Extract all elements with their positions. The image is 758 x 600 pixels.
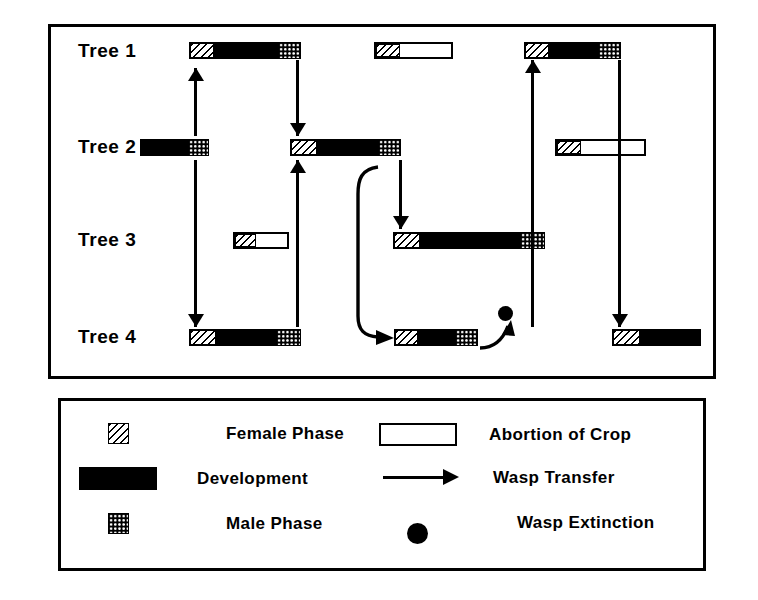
legend-development: Development	[79, 467, 308, 490]
transfer-tree1-to-tree4-shaft	[618, 60, 621, 327]
legend-male-phase-swatch-slot	[79, 513, 226, 534]
tree3-crop-2	[393, 232, 545, 249]
tree1-crop-3	[524, 42, 621, 59]
row-label-tree3: Tree 3	[78, 229, 137, 251]
legend-panel: Female PhaseDevelopmentMale Phase Aborti…	[58, 398, 706, 571]
arrow-shaft	[383, 476, 445, 479]
tree2-crop-2-black-segment	[317, 140, 378, 155]
tree1-crop-3-male-segment	[598, 43, 620, 58]
legend-female-phase-swatch-slot	[79, 423, 226, 444]
tree4-crop-1-female-segment	[190, 330, 216, 345]
tree3-crop-1	[233, 232, 289, 249]
tree2-crop-1	[140, 139, 209, 156]
tree2-crop-3-female-segment	[557, 141, 581, 154]
transfer-tree4-to-extinction-arrowhead	[502, 320, 515, 336]
transfer-tree4-to-tree2-arrowhead	[290, 160, 306, 173]
tree3-crop-1-female-segment	[235, 234, 256, 247]
transfer-tree2-curve-to-tree4	[356, 164, 396, 349]
row-label-tree2: Tree 2	[78, 136, 137, 158]
transfer-tree4-to-extinction	[480, 322, 520, 362]
diagram-panel: Tree 1Tree 2Tree 3Tree 4	[48, 24, 716, 379]
arrow-head	[443, 469, 459, 485]
tree4-crop-2-female-segment	[395, 330, 418, 345]
legend-wasp-transfer-label: Wasp Transfer	[493, 468, 615, 488]
tree1-crop-1-black-segment	[214, 43, 278, 58]
legend-development-dev-icon	[79, 467, 157, 490]
transfer-tree2-to-tree4-arrowhead	[188, 314, 204, 327]
tree4-crop-2	[394, 329, 478, 346]
legend-wasp-extinction-label: Wasp Extinction	[517, 513, 655, 533]
tree4-crop-3-female-segment	[613, 330, 640, 345]
tree2-crop-3-white-segment	[581, 141, 644, 154]
tree1-crop-2	[374, 42, 453, 59]
figure-canvas: Tree 1Tree 2Tree 3Tree 4 Female PhaseDev…	[0, 0, 758, 600]
legend-male-phase-male-icon	[108, 513, 129, 534]
legend-female-phase-label: Female Phase	[226, 424, 344, 444]
transfer-tree4-to-tree2-shaft	[296, 160, 299, 327]
tree1-crop-3-black-segment	[549, 43, 598, 58]
tree3-crop-1-white-segment	[256, 234, 287, 247]
tree4-crop-1-black-segment	[216, 330, 276, 345]
transfer-tree2-to-tree1-arrowhead	[188, 68, 204, 81]
legend-wasp-extinction: Wasp Extinction	[379, 513, 655, 533]
tree3-crop-2-black-segment	[420, 233, 520, 248]
legend-female-phase-female-icon	[108, 423, 129, 444]
legend-male-phase: Male Phase	[79, 513, 323, 534]
legend-wasp-extinction-dot-icon	[407, 523, 428, 544]
row-label-tree4: Tree 4	[78, 326, 137, 348]
tree4-crop-2-male-segment	[455, 330, 477, 345]
tree1-crop-2-white-segment	[400, 44, 451, 57]
tree2-crop-2-male-segment	[378, 140, 400, 155]
row-label-tree1: Tree 1	[78, 40, 137, 62]
legend-development-swatch-slot	[79, 467, 197, 490]
tree4-crop-2-black-segment	[418, 330, 455, 345]
transfer-tree2-curve-to-tree4-arrowhead	[376, 330, 394, 345]
tree2-crop-1-male-segment	[188, 140, 208, 155]
tree2-crop-1-black-segment	[141, 140, 188, 155]
tree3-crop-2-female-segment	[394, 233, 420, 248]
tree4-crop-1	[189, 329, 301, 346]
tree2-crop-2	[290, 139, 401, 156]
transfer-tree1-to-tree4-arrowhead	[612, 314, 628, 327]
tree2-crop-3	[555, 139, 646, 156]
tree1-crop-1	[189, 42, 301, 59]
transfer-tree4-to-tree1-shaft	[531, 60, 534, 327]
tree1-crop-1-female-segment	[190, 43, 214, 58]
legend-development-label: Development	[197, 469, 308, 489]
tree4-crop-3-black-segment	[640, 330, 700, 345]
legend-abortion-of-crop-label: Abortion of Crop	[489, 425, 631, 445]
tree2-crop-2-female-segment	[291, 140, 317, 155]
legend-wasp-transfer: Wasp Transfer	[379, 467, 615, 488]
legend-wasp-transfer-swatch-slot	[379, 467, 493, 488]
tree4-crop-1-male-segment	[276, 330, 300, 345]
legend-female-phase: Female Phase	[79, 423, 344, 444]
transfer-tree2-to-tree4-shaft	[194, 160, 197, 327]
transfer-tree4-to-tree1-arrowhead	[525, 60, 541, 73]
transfer-tree1-to-tree2-arrowhead	[290, 123, 306, 136]
tree1-crop-1-male-segment	[278, 43, 300, 58]
legend-male-phase-label: Male Phase	[226, 514, 323, 534]
legend-abortion-of-crop-swatch-slot	[379, 423, 489, 446]
legend-abortion-of-crop: Abortion of Crop	[379, 423, 631, 446]
tree1-crop-3-female-segment	[525, 43, 549, 58]
tree1-crop-2-female-segment	[376, 44, 400, 57]
wasp-extinction-dot	[498, 306, 513, 321]
tree4-crop-3	[612, 329, 701, 346]
legend-wasp-transfer-arrow-icon	[383, 467, 461, 488]
legend-abortion-of-crop-open-icon	[379, 423, 457, 446]
